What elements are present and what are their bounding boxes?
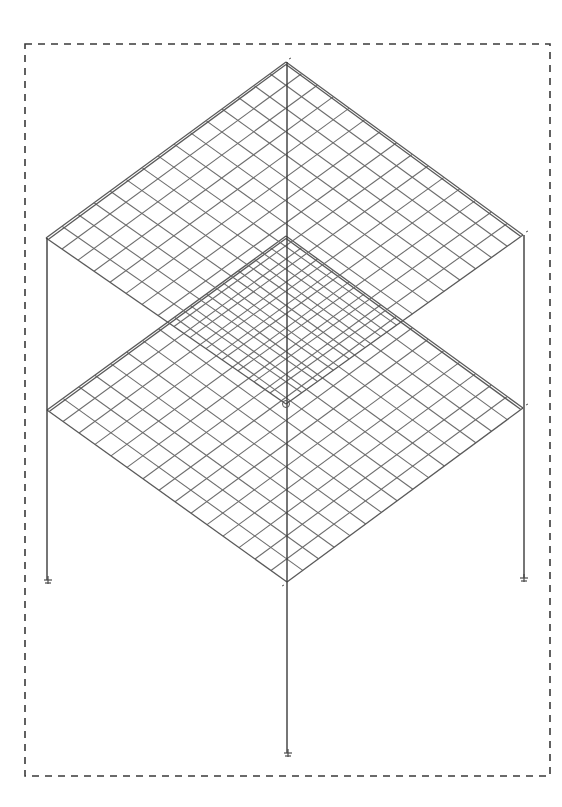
mesh-line [206,121,444,292]
mesh-line [271,397,507,571]
center-support-icon[interactable] [284,749,292,757]
mesh-line [174,154,412,326]
mesh-line [46,62,286,238]
mesh-line [286,235,523,404]
mesh-line [287,408,523,582]
mesh-line [63,247,302,421]
right-support-icon[interactable] [520,574,528,582]
mesh-line [223,362,460,536]
mesh-line [111,364,350,536]
mesh-line [238,97,476,269]
supports-group[interactable] [44,574,528,757]
mesh-line [286,62,523,235]
mesh-line [78,85,318,260]
node-tick-icon [526,404,528,405]
mesh-line [270,74,507,247]
mesh-line [95,375,334,547]
mesh-line [63,398,303,570]
mesh-line [286,236,523,408]
mesh-line [127,352,366,524]
mesh-line [239,374,476,548]
mesh-line [207,351,444,525]
mesh-line [143,340,382,512]
node-tick-icon [282,585,284,586]
node-tick-icon [526,231,528,232]
mesh-line [79,387,319,559]
mesh-line [255,385,491,559]
mesh-line [174,144,412,314]
slab-edge-offset [286,239,521,410]
mesh-line [47,410,287,582]
mesh-line [270,223,507,392]
mesh-line [254,85,491,257]
mesh-line [190,132,428,302]
mesh-line [159,329,398,501]
mesh-line [222,109,460,280]
mesh-line [270,248,507,420]
mesh-line [62,74,302,250]
left-support-icon[interactable] [44,576,52,584]
structural-model-canvas[interactable] [0,0,562,807]
slab-edge-offset [286,65,521,237]
mesh-line [47,236,286,410]
node-tick-icon [289,58,291,59]
